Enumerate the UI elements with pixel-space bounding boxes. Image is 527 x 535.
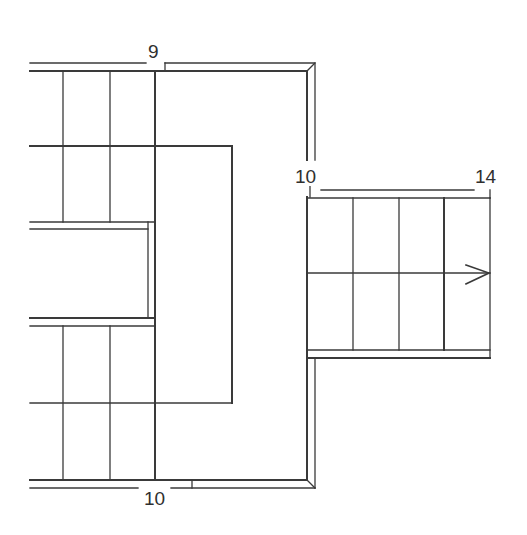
middle-well bbox=[30, 222, 155, 326]
dimension-label-right-stair-end: 14 bbox=[474, 167, 497, 186]
top-wall bbox=[30, 63, 315, 71]
bottom-wall bbox=[30, 480, 315, 488]
right-flight bbox=[307, 190, 490, 358]
dimension-label-right-upper: 10 bbox=[294, 167, 317, 186]
upper-left-flight bbox=[30, 71, 232, 478]
landing-rectangle bbox=[30, 146, 232, 403]
right-wall-upper bbox=[307, 63, 315, 352]
right-wall-lower bbox=[307, 352, 315, 488]
dimension-label-bottom: 10 bbox=[143, 489, 166, 508]
dimension-label-top: 9 bbox=[147, 42, 160, 61]
staircase-plan bbox=[0, 0, 527, 535]
direction-arrow-icon bbox=[466, 265, 489, 284]
